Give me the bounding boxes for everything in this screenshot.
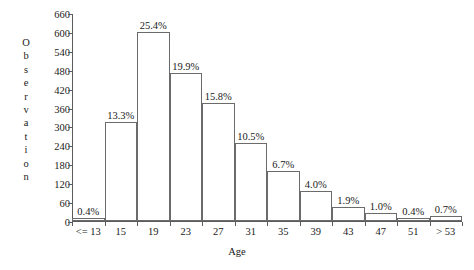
bar xyxy=(332,207,365,221)
y-axis-tick-mark xyxy=(68,146,72,147)
y-axis-tick-mark xyxy=(68,90,72,91)
x-axis-tick-label: 15 xyxy=(116,226,127,237)
x-axis-tick-label: 27 xyxy=(213,226,224,237)
y-axis-title-letter: e xyxy=(18,76,34,89)
y-axis-tick-mark xyxy=(68,71,72,72)
y-axis-title-letter: i xyxy=(18,143,34,156)
bar-value-label: 25.4% xyxy=(140,20,167,31)
x-axis-title: Age xyxy=(0,246,474,257)
bar-value-label: 6.7% xyxy=(272,159,294,170)
x-axis-tick-mark xyxy=(170,222,171,226)
x-axis-tick-mark xyxy=(430,222,431,226)
x-axis-tick-label: > 53 xyxy=(436,226,455,237)
bar-value-label: 0.7% xyxy=(435,204,457,215)
y-axis-title-letter: t xyxy=(18,130,34,143)
bar-value-label: 1.0% xyxy=(370,201,392,212)
x-axis-tick-mark xyxy=(267,222,268,226)
bar-value-label: 15.8% xyxy=(205,91,232,102)
bar xyxy=(137,32,170,221)
x-axis-tick-mark xyxy=(332,222,333,226)
bar xyxy=(105,122,138,221)
x-axis-tick-label: 47 xyxy=(376,226,387,237)
bar xyxy=(365,213,398,221)
x-axis-tick-mark xyxy=(137,222,138,226)
y-axis-title-letter: b xyxy=(18,49,34,62)
y-axis-title-letter: a xyxy=(18,116,34,129)
histogram-chart: Observation 0601201802403003604204805406… xyxy=(0,0,474,270)
x-axis-tick-label: 23 xyxy=(181,226,192,237)
bar-value-label: 13.3% xyxy=(107,110,134,121)
y-axis-title-letter: r xyxy=(18,90,34,103)
y-axis-line xyxy=(72,14,73,222)
x-axis-tick-label: <= 13 xyxy=(76,226,101,237)
bar-value-label: 4.0% xyxy=(305,179,327,190)
x-axis-tick-mark xyxy=(397,222,398,226)
y-axis-title-letter: s xyxy=(18,63,34,76)
bar xyxy=(170,73,203,221)
y-axis-title-letter: n xyxy=(18,170,34,183)
y-axis-tick-mark xyxy=(68,184,72,185)
plot-area: 0.4%13.3%25.4%19.9%15.8%10.5%6.7%4.0%1.9… xyxy=(72,14,462,222)
bar xyxy=(300,191,333,221)
y-axis-tick-mark xyxy=(68,14,72,15)
bar-value-label: 1.9% xyxy=(337,195,359,206)
y-axis-tick-mark xyxy=(68,52,72,53)
bar xyxy=(430,216,463,221)
bar xyxy=(267,171,300,221)
x-axis-tick-mark xyxy=(202,222,203,226)
x-axis-tick-label: 51 xyxy=(408,226,419,237)
y-axis-tick-labels: 060120180240300360420480540600660 xyxy=(34,0,70,270)
bar xyxy=(397,218,430,221)
bar-value-label: 19.9% xyxy=(172,61,199,72)
bar xyxy=(202,103,235,221)
y-axis-title-letter: v xyxy=(18,103,34,116)
x-axis-tick-label: 39 xyxy=(311,226,322,237)
y-axis-title-letter: O xyxy=(18,36,34,49)
x-axis-tick-label: 43 xyxy=(343,226,354,237)
x-axis-tick-label: 35 xyxy=(278,226,289,237)
x-axis-tick-label: 31 xyxy=(246,226,257,237)
y-axis-title-letter: o xyxy=(18,157,34,170)
bar xyxy=(235,143,268,221)
x-axis-tick-mark xyxy=(105,222,106,226)
y-axis-title: Observation xyxy=(18,36,34,183)
y-axis-tick-mark xyxy=(68,33,72,34)
x-axis-tick-mark xyxy=(365,222,366,226)
bar-value-label: 0.4% xyxy=(402,206,424,217)
bar-value-label: 0.4% xyxy=(77,206,99,217)
x-axis-tick-mark xyxy=(462,222,463,226)
y-axis-tick-mark xyxy=(68,127,72,128)
x-axis-tick-mark xyxy=(300,222,301,226)
x-axis-tick-label: 19 xyxy=(148,226,159,237)
x-axis-tick-mark xyxy=(72,222,73,226)
bar-value-label: 10.5% xyxy=(237,131,264,142)
y-axis-tick-mark xyxy=(68,203,72,204)
x-axis-tick-mark xyxy=(235,222,236,226)
y-axis-tick-mark xyxy=(68,165,72,166)
y-axis-tick-mark xyxy=(68,109,72,110)
bar xyxy=(72,218,105,221)
